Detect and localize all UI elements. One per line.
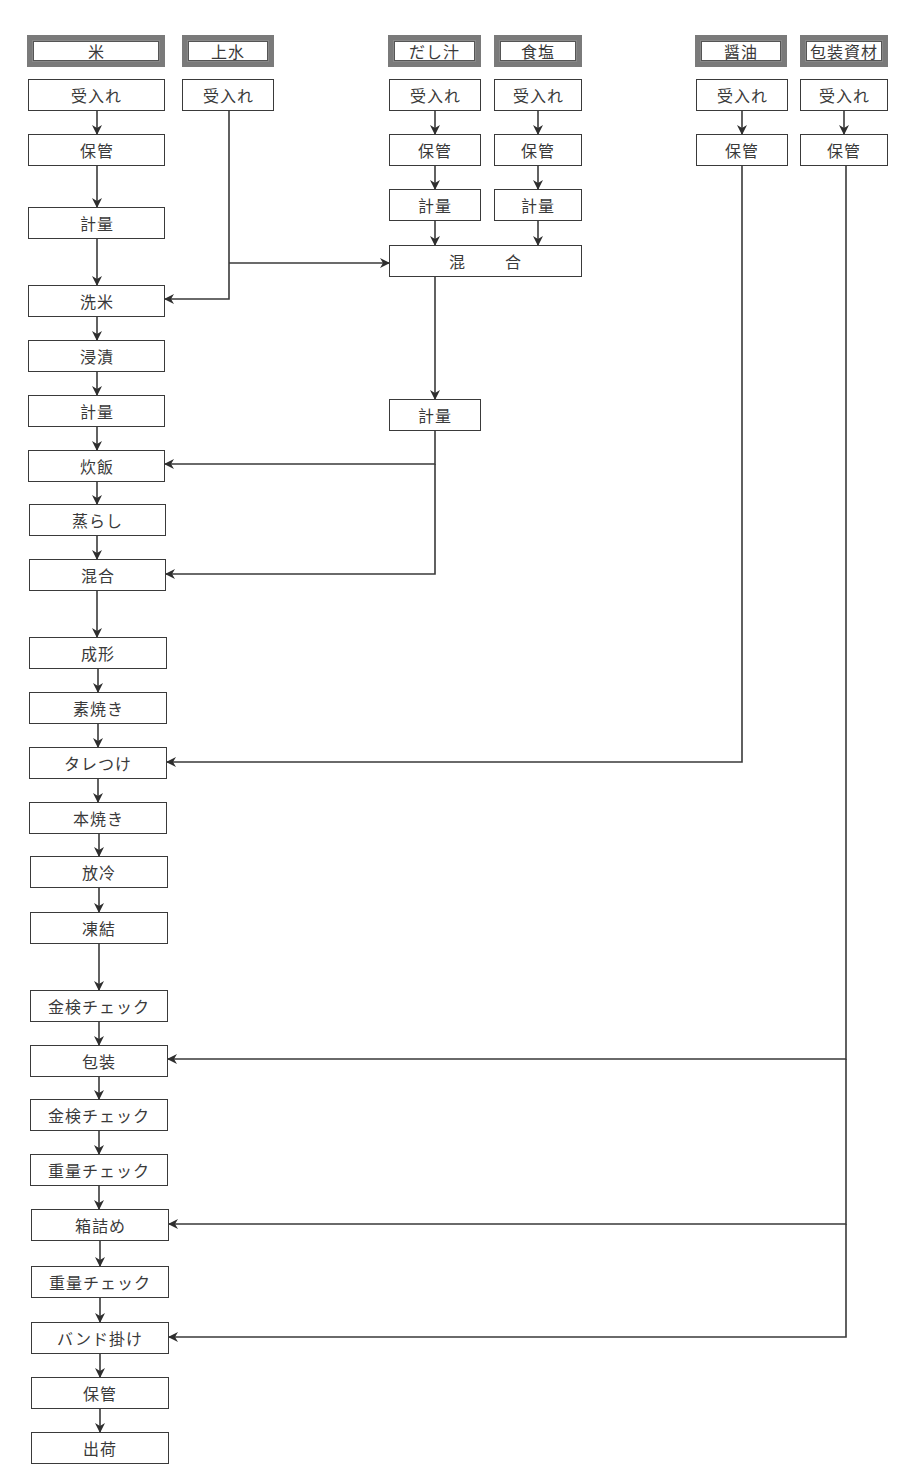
step-label: 計量	[418, 193, 452, 217]
step-label: 蒸らし	[72, 508, 123, 532]
step-label: 放冷	[82, 860, 116, 884]
step-label: 混合	[81, 563, 115, 587]
step-water-receive: 受入れ	[182, 79, 274, 111]
step-rice-receive: 受入れ	[28, 79, 165, 111]
step-label: タレつけ	[64, 751, 132, 775]
step-label: 米	[88, 39, 105, 63]
step-label: 洗米	[80, 289, 114, 313]
step-label: 出荷	[83, 1436, 117, 1460]
step-label: 保管	[83, 1381, 117, 1405]
step-sauce: タレつけ	[29, 747, 167, 779]
step-label: 浸漬	[80, 344, 114, 368]
step-label: 受入れ	[819, 83, 870, 107]
step-label: バンド掛け	[57, 1326, 143, 1350]
step-salt-store: 保管	[494, 134, 582, 166]
source-dashi: だし汁	[388, 35, 481, 67]
step-label: 金検チェック	[48, 1103, 150, 1127]
step-soy-store: 保管	[696, 134, 788, 166]
step-label: 箱詰め	[75, 1213, 126, 1237]
flow-arrow	[169, 1224, 846, 1337]
step-label: 凍結	[82, 916, 116, 940]
step-metal-check1: 金検チェック	[30, 990, 168, 1022]
step-rice-weigh: 計量	[28, 207, 165, 239]
source-soy: 醤油	[695, 35, 787, 67]
step-label-right: 合	[505, 249, 522, 273]
step-bake: 本焼き	[29, 802, 167, 834]
step-label: 保管	[418, 138, 452, 162]
source-rice: 米	[27, 35, 165, 67]
step-label: 重量チェック	[48, 1158, 150, 1182]
process-flow-diagram: 米上水だし汁食塩醤油包装資材受入れ受入れ受入れ受入れ受入れ受入れ保管保管保管保管…	[0, 0, 907, 1478]
step-label: 保管	[521, 138, 555, 162]
step-label: 醤油	[724, 39, 758, 63]
step-label: 計量	[521, 193, 555, 217]
step-prebake: 素焼き	[29, 692, 167, 724]
step-label: だし汁	[409, 39, 460, 63]
step-label: 受入れ	[71, 83, 122, 107]
step-label: 受入れ	[717, 83, 768, 107]
step-label: 保管	[827, 138, 861, 162]
step-weigh2: 計量	[28, 395, 165, 427]
flow-arrow	[168, 166, 846, 1059]
step-final-store: 保管	[31, 1377, 169, 1409]
step-boxing: 箱詰め	[31, 1209, 169, 1241]
step-rice-store: 保管	[28, 134, 165, 166]
step-label: 計量	[80, 399, 114, 423]
step-form: 成形	[29, 637, 167, 669]
step-label: 受入れ	[203, 83, 254, 107]
source-water: 上水	[182, 35, 274, 67]
step-label: 素焼き	[73, 696, 124, 720]
step-label: 炊飯	[80, 454, 114, 478]
step-label: 成形	[81, 641, 115, 665]
step-cook: 炊飯	[28, 450, 165, 482]
step-label: 包装資材	[810, 39, 878, 63]
flow-arrow	[165, 431, 435, 464]
source-salt: 食塩	[494, 35, 582, 67]
step-label: 計量	[80, 211, 114, 235]
step-pack-store: 保管	[800, 134, 888, 166]
flow-arrow	[165, 111, 229, 299]
step-pack: 包装	[30, 1045, 168, 1077]
step-seasoning-weigh: 計量	[389, 399, 481, 431]
step-label: 本焼き	[73, 806, 124, 830]
step-steam: 蒸らし	[29, 504, 166, 536]
step-label: 上水	[211, 39, 245, 63]
step-label: 食塩	[521, 39, 555, 63]
flow-arrow	[166, 464, 435, 574]
step-seasoning-mix: 混合	[389, 245, 582, 277]
step-label: 重量チェック	[49, 1270, 151, 1294]
step-cool: 放冷	[30, 856, 168, 888]
step-label: 金検チェック	[48, 994, 150, 1018]
step-label-left: 混	[449, 249, 466, 273]
step-label: 保管	[725, 138, 759, 162]
step-dashi-receive: 受入れ	[389, 79, 481, 111]
source-packaging: 包装資材	[800, 35, 888, 67]
step-salt-weigh: 計量	[494, 189, 582, 221]
step-wash: 洗米	[28, 285, 165, 317]
step-metal-check2: 金検チェック	[30, 1099, 168, 1131]
step-dashi-store: 保管	[389, 134, 481, 166]
step-banding: バンド掛け	[31, 1322, 169, 1354]
step-weight-check2: 重量チェック	[31, 1266, 169, 1298]
step-label: 受入れ	[513, 83, 564, 107]
step-pack-receive: 受入れ	[800, 79, 888, 111]
step-dashi-weigh: 計量	[389, 189, 481, 221]
step-label: 受入れ	[410, 83, 461, 107]
step-soy-receive: 受入れ	[696, 79, 788, 111]
step-freeze: 凍結	[30, 912, 168, 944]
step-salt-receive: 受入れ	[494, 79, 582, 111]
step-label: 計量	[418, 403, 452, 427]
step-ship: 出荷	[31, 1432, 169, 1464]
step-mix: 混合	[29, 559, 166, 591]
flow-arrow	[169, 1059, 846, 1224]
step-label: 保管	[80, 138, 114, 162]
step-label: 包装	[82, 1049, 116, 1073]
step-soak: 浸漬	[28, 340, 165, 372]
step-weight-check1: 重量チェック	[30, 1154, 168, 1186]
